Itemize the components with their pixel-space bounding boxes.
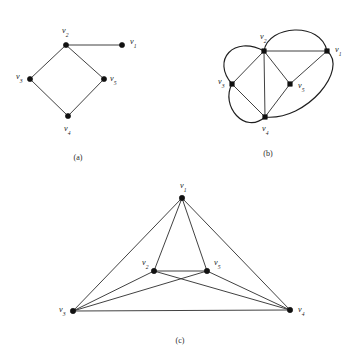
label-a-v5: v5 xyxy=(110,74,117,86)
vertex-c-v5 xyxy=(204,268,209,273)
panel-b-vertices xyxy=(230,49,329,119)
edge-b-v4-v5 xyxy=(265,84,290,117)
vertex-b-v4 xyxy=(263,115,267,119)
panel-c: v1 v2 v3 v4 v5 (c) xyxy=(59,181,305,345)
caption-b: (b) xyxy=(263,149,273,158)
edge-c-v2-v4 xyxy=(154,271,290,310)
edge-b-v2-v3 xyxy=(232,51,264,84)
edge-a-v3-v4 xyxy=(30,79,68,116)
label-c-v5: v5 xyxy=(214,258,221,270)
edge-a-v5-v4 xyxy=(68,79,104,116)
caption-a: (a) xyxy=(74,153,83,162)
edge-a-v2-v3 xyxy=(30,45,66,79)
vertex-a-v3 xyxy=(27,76,32,81)
edge-b-v3-v4-curve-bottom xyxy=(229,84,265,123)
label-c-v2: v2 xyxy=(142,258,149,270)
label-b-v4: v4 xyxy=(262,124,269,136)
edge-b-v3-v4 xyxy=(232,84,265,117)
vertex-b-v5 xyxy=(288,82,292,86)
edge-b-v2-v4 xyxy=(264,51,265,117)
panel-a-labels: v1 v2 v3 v4 v5 xyxy=(16,26,137,136)
vertex-a-v1 xyxy=(119,42,124,47)
label-b-v3: v3 xyxy=(218,77,225,89)
vertex-c-v2 xyxy=(151,268,156,273)
label-c-v4: v4 xyxy=(298,305,305,317)
edge-c-v2-v3 xyxy=(73,271,154,311)
label-b-v5: v5 xyxy=(298,81,305,93)
vertex-b-v3 xyxy=(230,82,234,86)
caption-c: (c) xyxy=(176,336,185,345)
label-a-v3: v3 xyxy=(16,72,23,84)
label-a-v2: v2 xyxy=(62,26,69,38)
panel-b-outer-curves xyxy=(224,30,333,123)
edge-c-v1-v4 xyxy=(182,198,290,310)
vertex-a-v4 xyxy=(65,113,70,118)
edge-a-v2-v5 xyxy=(66,45,104,79)
label-a-v1: v1 xyxy=(130,37,137,49)
edge-c-v1-v5 xyxy=(182,198,207,271)
figure-container: v1 v2 v3 v4 v5 (a) xyxy=(0,0,360,358)
panel-b-edges xyxy=(232,51,327,117)
label-b-v2: v2 xyxy=(260,32,267,44)
vertex-c-v4 xyxy=(287,307,292,312)
panel-c-edges xyxy=(73,198,290,311)
edge-b-v2-v3-curve-left xyxy=(224,46,264,84)
label-c-v3: v3 xyxy=(59,305,66,317)
edge-c-v1-v2 xyxy=(154,198,182,271)
vertex-b-v2 xyxy=(262,49,266,53)
graph-figure: v1 v2 v3 v4 v5 (a) xyxy=(0,0,360,358)
vertex-a-v5 xyxy=(101,76,106,81)
edge-b-v2-v5 xyxy=(264,51,290,84)
label-a-v4: v4 xyxy=(64,124,71,136)
edge-b-v5-v1 xyxy=(290,51,327,84)
panel-c-labels: v1 v2 v3 v4 v5 xyxy=(59,181,305,317)
panel-a-edges xyxy=(30,45,122,116)
edge-c-v5-v4 xyxy=(207,271,290,310)
vertex-c-v3 xyxy=(70,308,75,313)
vertex-c-v1 xyxy=(179,195,184,200)
edge-c-v5-v3 xyxy=(73,271,207,311)
edge-c-v3-v4 xyxy=(73,310,290,311)
edge-b-v2-v1-curve-top xyxy=(264,30,327,51)
panel-a: v1 v2 v3 v4 v5 (a) xyxy=(16,26,137,162)
label-c-v1: v1 xyxy=(180,181,187,193)
panel-b: v1 v2 v3 v4 v5 (b) xyxy=(218,30,342,158)
label-b-v1: v1 xyxy=(335,45,342,57)
vertex-b-v1 xyxy=(325,49,329,53)
edge-c-v1-v3 xyxy=(73,198,182,311)
vertex-a-v2 xyxy=(63,42,68,47)
